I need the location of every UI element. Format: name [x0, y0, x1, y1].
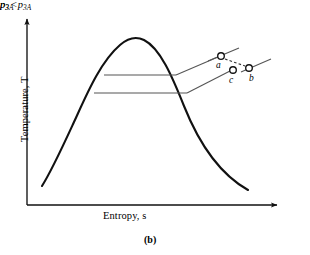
isobar-line-p3: [241, 59, 271, 72]
less-than-sign: <: [9, 0, 18, 10]
relation-p-subscript: 3A: [23, 3, 31, 12]
expansion-path-a-to-b: [225, 59, 245, 66]
state-point-c-marker: [230, 67, 237, 74]
state-point-c-label: c: [229, 76, 233, 86]
x-axis-label: Entropy, s: [103, 211, 146, 222]
state-point-a-marker: [218, 53, 225, 60]
state-point-a-label: a: [216, 61, 221, 71]
state-point-b-marker: [246, 65, 253, 72]
ts-diagram-canvas: [0, 0, 310, 255]
leader-line-to-point-c: [187, 71, 230, 93]
ts-diagram-figure: Temperature, T Entropy, s p3A p3<p3A a b…: [0, 0, 310, 255]
state-point-b-label: b: [249, 74, 254, 84]
figure-caption: (b): [144, 235, 156, 245]
y-axis-label: Temperature, T: [20, 54, 31, 164]
isobar-label-p3-relation: p3<p3A: [0, 0, 31, 11]
isobar-label-p3-subscript: 3: [5, 3, 9, 12]
